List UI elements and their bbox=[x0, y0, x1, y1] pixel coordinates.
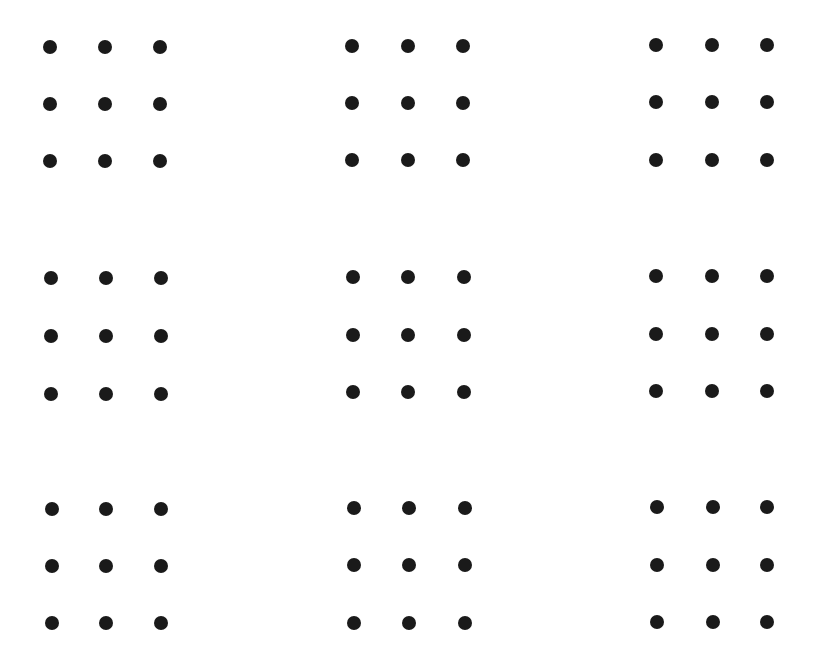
dot-r3-c1 bbox=[650, 615, 664, 629]
dot-r2-c3 bbox=[760, 558, 774, 572]
dot-grid-9 bbox=[0, 0, 819, 654]
dot-r2-c1 bbox=[650, 558, 664, 572]
nine-dot-puzzle-sheet bbox=[0, 0, 819, 654]
dot-r1-c3 bbox=[760, 500, 774, 514]
dot-r1-c1 bbox=[650, 500, 664, 514]
dot-r3-c3 bbox=[760, 615, 774, 629]
dot-r3-c2 bbox=[706, 615, 720, 629]
dot-r1-c2 bbox=[706, 500, 720, 514]
dot-r2-c2 bbox=[706, 558, 720, 572]
